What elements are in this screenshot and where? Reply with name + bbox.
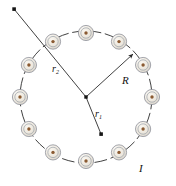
coil-12 xyxy=(45,34,60,49)
coil-current-dot xyxy=(51,151,54,154)
coil-current-dot xyxy=(141,127,144,130)
coil-current-dot xyxy=(84,159,87,162)
label-r2-subscript: 2 xyxy=(56,69,59,75)
label-r1-subscript: 1 xyxy=(99,114,102,120)
label-r2: r2 xyxy=(52,63,59,75)
r1-endpoint-dot xyxy=(99,132,103,136)
coil-current-dot xyxy=(84,31,87,34)
coil-current-dot xyxy=(150,95,153,98)
coil-current-dot xyxy=(27,127,30,130)
radius-r2-line xyxy=(14,9,86,97)
coil-ring-diagram: R r1 r2 I xyxy=(0,0,176,186)
coil-2 xyxy=(111,34,126,49)
label-r1: r1 xyxy=(95,108,102,120)
label-R: R xyxy=(121,74,129,86)
ring-center-dot xyxy=(84,95,87,98)
coil-current-dot xyxy=(27,63,30,66)
figure-root: R r1 r2 I xyxy=(0,0,176,186)
label-current-I: I xyxy=(138,162,144,174)
coil-current-dot xyxy=(117,151,120,154)
coil-11 xyxy=(21,57,36,72)
coil-6 xyxy=(111,145,126,160)
coil-8 xyxy=(45,145,60,160)
coil-current-dot xyxy=(51,40,54,43)
coil-3 xyxy=(136,57,151,72)
coil-7 xyxy=(78,153,93,168)
coil-current-dot xyxy=(141,63,144,66)
coil-4 xyxy=(144,89,159,104)
labels-layer: R r1 r2 I xyxy=(52,63,144,174)
coil-1 xyxy=(78,25,93,40)
coil-9 xyxy=(21,121,36,136)
coil-5 xyxy=(136,121,151,136)
coil-current-dot xyxy=(18,95,21,98)
coil-current-dot xyxy=(117,40,120,43)
coil-10 xyxy=(12,89,27,104)
r2-endpoint-dot xyxy=(12,7,16,11)
